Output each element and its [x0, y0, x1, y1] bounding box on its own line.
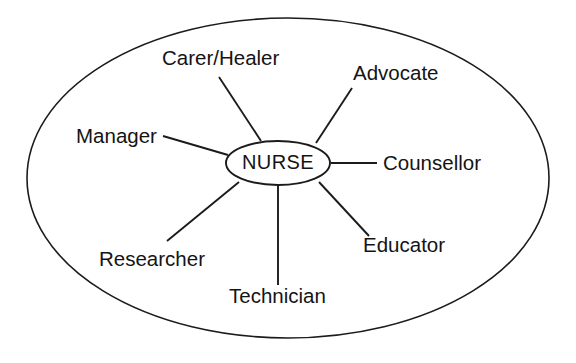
role-label-manager: Manager — [76, 124, 157, 147]
role-label-educator: Educator — [363, 233, 445, 256]
spoke-line-carer-healer — [219, 77, 261, 141]
core-node-label: NURSE — [242, 151, 314, 173]
role-label-counsellor: Counsellor — [383, 151, 481, 174]
role-label-carer-healer: Carer/Healer — [162, 46, 280, 69]
nurse-roles-diagram: NURSE Carer/HealerAdvocateCounsellorEduc… — [0, 0, 576, 363]
spoke-line-advocate — [316, 88, 352, 143]
role-label-technician: Technician — [229, 284, 326, 307]
spoke-line-researcher — [167, 182, 239, 241]
role-label-advocate: Advocate — [353, 61, 438, 84]
spoke-line-educator — [319, 182, 369, 236]
spoke-line-manager — [163, 136, 228, 155]
role-label-researcher: Researcher — [99, 247, 205, 270]
